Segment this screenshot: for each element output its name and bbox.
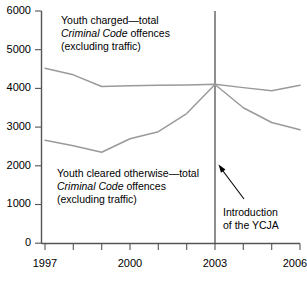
series-line-youth-charged [45,68,300,90]
lower-label-line2-italic: Criminal Code [57,180,124,192]
svg-text:Criminal Code offences: Criminal Code offences [57,180,166,192]
svg-text:Youth charged—total: Youth charged—total [61,14,159,26]
series-label-youth-charged: Youth charged—total Criminal Code offenc… [61,14,170,52]
x-tick-label-2006: 2006 [283,257,307,269]
y-tick-label-3000: 3000 [7,120,31,132]
x-tick-label-2000: 2000 [118,257,142,269]
lower-label-line3: (excluding traffic) [57,193,137,205]
lower-label-line2-rest: offences [124,180,166,192]
upper-label-line3: (excluding traffic) [61,40,141,52]
x-tick-label-1997: 1997 [33,257,57,269]
y-tick-label-1000: 1000 [7,197,31,209]
upper-label-line2-italic: Criminal Code [61,27,128,39]
ycja-annotation: Introduction of the YCJA [219,165,279,232]
y-tick-label-6000: 6000 [7,4,31,16]
svg-text:Youth cleared otherwise—total: Youth cleared otherwise—total [57,167,199,179]
x-tick-label-2003: 2003 [203,257,227,269]
y-tick-label-4000: 4000 [7,81,31,93]
upper-label-line1-dash: — [128,14,139,26]
y-tick-label-2000: 2000 [7,159,31,171]
x-axis-group: 1997 2000 2003 2006 [33,244,307,270]
chart-container: 6000 5000 4000 3000 2000 1000 0 1997 200… [0,0,307,294]
upper-label-line2-rest: offences [128,27,170,39]
y-axis-group: 6000 5000 4000 3000 2000 1000 0 [7,4,42,248]
ycja-arrow-head [219,165,226,173]
lower-label-line1-b: total [179,167,199,179]
ycja-annotation-line1: Introduction [223,206,278,218]
line-chart: 6000 5000 4000 3000 2000 1000 0 1997 200… [0,0,307,294]
y-tick-label-5000: 5000 [7,43,31,55]
series-line-youth-cleared [45,85,300,153]
series-label-youth-cleared: Youth cleared otherwise—total Criminal C… [57,167,199,205]
svg-text:Criminal Code offences: Criminal Code offences [61,27,170,39]
lower-label-line1-dash: — [169,167,180,179]
upper-label-line1-a: Youth charged [61,14,128,26]
upper-label-line1-b: total [139,14,159,26]
y-tick-label-0: 0 [25,236,31,248]
lower-label-line1-a: Youth cleared otherwise [57,167,169,179]
ycja-arrow-line [222,169,245,199]
ycja-annotation-line2: of the YCJA [223,219,279,231]
